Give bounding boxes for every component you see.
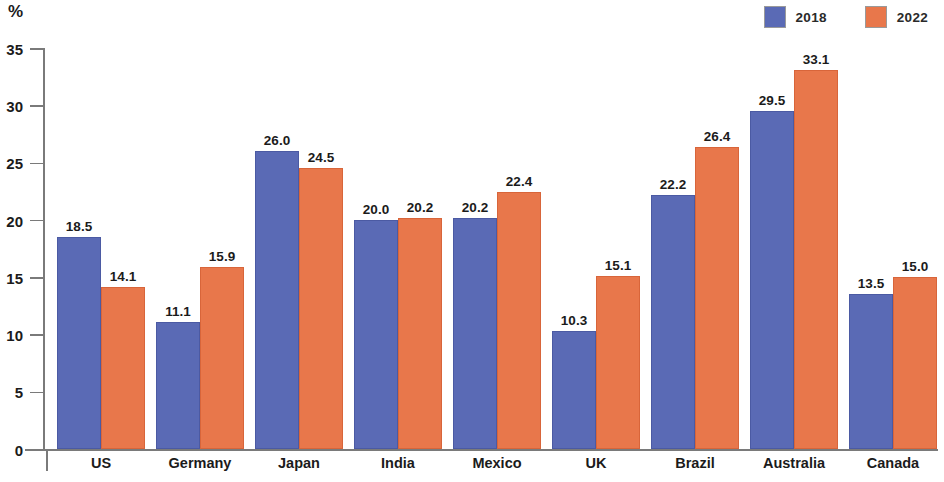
bar-value-label: 26.0 (264, 133, 290, 148)
bar-value-label: 11.1 (165, 304, 191, 319)
bar[interactable]: 18.5 (57, 237, 101, 449)
bar[interactable]: 20.2 (398, 218, 442, 449)
bar[interactable]: 29.5 (750, 111, 794, 449)
x-axis-category-label: Mexico (453, 455, 541, 471)
x-axis-category-label: Brazil (651, 455, 739, 471)
bar[interactable]: 15.9 (200, 267, 244, 449)
bar-value-label: 20.2 (407, 200, 433, 215)
bar-value-label: 13.5 (858, 276, 884, 291)
y-axis-tick: 0 (30, 449, 43, 451)
y-axis-tick-label: 5 (15, 384, 23, 401)
y-axis-tick-label: 25 (6, 155, 23, 172)
y-axis-tick: 15 (30, 277, 43, 279)
bar-value-label: 26.4 (704, 129, 730, 144)
bar-value-label: 24.5 (308, 150, 334, 165)
bar[interactable]: 13.5 (849, 294, 893, 449)
square-swatch-icon (764, 6, 786, 28)
y-axis-line (43, 48, 45, 449)
legend-label: 2022 (897, 10, 928, 25)
bar-value-label: 14.1 (110, 269, 136, 284)
bar[interactable]: 20.2 (453, 218, 497, 449)
bar-group: 29.533.1 (750, 48, 838, 449)
bar[interactable]: 24.5 (299, 168, 343, 449)
bar[interactable]: 20.0 (354, 220, 398, 449)
bar-value-label: 15.1 (605, 258, 631, 273)
x-axis-category-label: India (354, 455, 442, 471)
y-axis-tick: 35 (30, 48, 43, 50)
bar-value-label: 15.9 (209, 249, 235, 264)
x-axis-category-label: US (57, 455, 145, 471)
bar[interactable]: 10.3 (552, 331, 596, 449)
bar-group: 20.222.4 (453, 48, 541, 449)
y-axis-tick: 30 (30, 105, 43, 107)
bar[interactable]: 22.4 (497, 192, 541, 449)
y-axis-tick-label: 15 (6, 269, 23, 286)
y-axis-tick: 10 (30, 334, 43, 336)
y-axis-tick: 25 (30, 163, 43, 165)
bar[interactable]: 15.1 (596, 276, 640, 449)
y-axis-unit-label: % (8, 2, 23, 22)
x-axis-category-label: UK (552, 455, 640, 471)
bar[interactable]: 26.4 (695, 147, 739, 449)
y-axis-tick-label: 35 (6, 40, 23, 57)
bar-value-label: 10.3 (561, 313, 587, 328)
x-axis-category-label: Germany (156, 455, 244, 471)
x-axis-line (25, 449, 938, 451)
bar[interactable]: 14.1 (101, 287, 145, 449)
legend-item-2022[interactable]: 2022 (865, 6, 928, 28)
bar-value-label: 29.5 (759, 93, 785, 108)
y-axis-tick: 20 (30, 220, 43, 222)
bar[interactable]: 33.1 (794, 70, 838, 449)
chart-legend: 2018 2022 (764, 6, 928, 28)
bar-group: 10.315.1 (552, 48, 640, 449)
grouped-bar-chart: % 2018 2022 05101520253035 18.514.111.11… (0, 0, 944, 482)
y-axis-tick: 5 (30, 392, 43, 394)
bar-value-label: 22.2 (660, 177, 686, 192)
bar-group: 13.515.0 (849, 48, 937, 449)
bar-group: 26.024.5 (255, 48, 343, 449)
bar-value-label: 15.0 (902, 259, 928, 274)
bar[interactable]: 11.1 (156, 322, 200, 449)
bar[interactable]: 26.0 (255, 151, 299, 449)
square-swatch-icon (865, 6, 887, 28)
bar-group: 18.514.1 (57, 48, 145, 449)
y-axis-tick-label: 10 (6, 327, 23, 344)
x-axis-origin-tick (46, 449, 48, 471)
x-axis-category-label: Canada (849, 455, 937, 471)
y-axis-tick-label: 20 (6, 212, 23, 229)
bar-value-label: 20.2 (462, 200, 488, 215)
bar[interactable]: 22.2 (651, 195, 695, 449)
bar-group: 20.020.2 (354, 48, 442, 449)
bar[interactable]: 15.0 (893, 277, 937, 449)
bar-value-label: 18.5 (66, 219, 92, 234)
bar-group: 11.115.9 (156, 48, 244, 449)
bar-value-label: 22.4 (506, 174, 532, 189)
legend-item-2018[interactable]: 2018 (764, 6, 827, 28)
bar-group: 22.226.4 (651, 48, 739, 449)
y-axis-tick-label: 30 (6, 98, 23, 115)
legend-label: 2018 (796, 10, 827, 25)
x-axis-category-label: Japan (255, 455, 343, 471)
bar-value-label: 20.0 (363, 202, 389, 217)
y-axis-tick-label: 0 (15, 441, 23, 458)
bar-value-label: 33.1 (803, 52, 829, 67)
plot-area: 05101520253035 18.514.111.115.926.024.52… (43, 48, 938, 449)
x-axis-category-label: Australia (750, 455, 838, 471)
